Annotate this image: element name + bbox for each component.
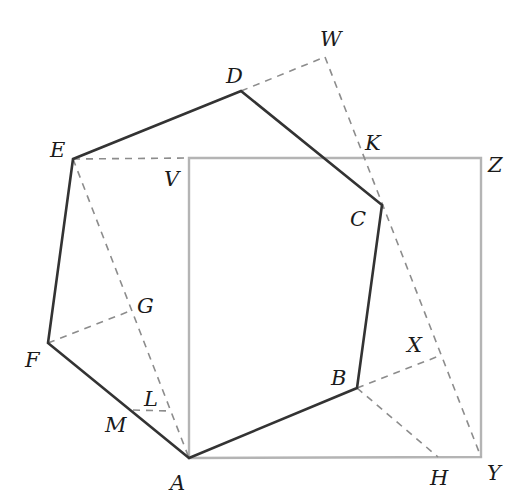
- dashed-bh: [357, 388, 438, 457]
- label-z: Z: [487, 153, 503, 177]
- dashed-ev: [73, 158, 189, 159]
- label-h: H: [429, 466, 449, 490]
- label-a: A: [168, 471, 185, 495]
- dashed-fg: [48, 311, 130, 343]
- label-d: D: [225, 64, 243, 88]
- label-x: X: [405, 333, 423, 357]
- dashed-dw: [241, 57, 325, 91]
- label-k: K: [364, 131, 382, 155]
- label-e: E: [49, 138, 65, 162]
- label-g: G: [137, 294, 154, 318]
- label-l: L: [143, 387, 158, 411]
- point-labels: A B C D E F G H K L M V W X Y Z: [24, 27, 503, 495]
- dashed-ea: [73, 159, 189, 458]
- geometry-diagram: A B C D E F G H K L M V W X Y Z: [0, 0, 526, 503]
- label-v: V: [164, 167, 181, 191]
- dashed-wy: [325, 57, 481, 457]
- label-m: M: [104, 413, 127, 437]
- construction-lines: [48, 57, 481, 458]
- hexagon-abcdef: [48, 91, 382, 458]
- label-b: B: [330, 366, 346, 390]
- label-f: F: [24, 348, 41, 372]
- label-y: Y: [487, 461, 503, 485]
- square-avzy: [189, 158, 481, 458]
- dashed-bx: [357, 356, 439, 388]
- label-w: W: [320, 27, 344, 51]
- label-c: C: [350, 207, 366, 231]
